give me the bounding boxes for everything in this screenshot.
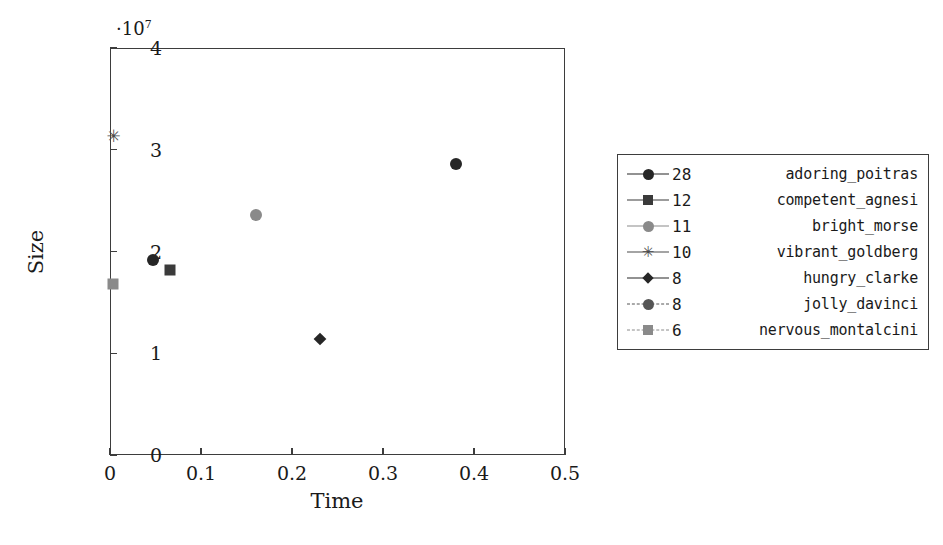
legend-marker-sample [626, 268, 670, 288]
data-point-star: ✳ [107, 127, 121, 144]
legend-series-name: nervous_montalcini [702, 321, 918, 339]
x-axis-tick-label: 0.3 [368, 462, 398, 484]
legend-marker-square-icon [643, 325, 653, 335]
legend-marker-sample [626, 320, 670, 340]
x-axis-tick [564, 448, 565, 455]
legend-series-name: adoring_poitras [702, 165, 918, 183]
x-axis-tick-label: 0.2 [277, 462, 307, 484]
legend-count: 10 [670, 243, 702, 262]
x-axis-tick-label: 0.1 [186, 462, 216, 484]
data-point-square [165, 264, 176, 275]
legend-item[interactable]: 6nervous_montalcini [626, 317, 918, 343]
legend-marker-sample: ✳ [626, 242, 670, 262]
legend-count: 8 [670, 269, 702, 288]
legend-count: 6 [670, 321, 702, 340]
legend-marker-sample [626, 164, 670, 184]
y-axis-title: Size [24, 230, 48, 275]
legend-marker-circle-icon [643, 299, 654, 310]
data-point-circle [147, 254, 159, 266]
legend-marker-circle-icon [643, 221, 654, 232]
x-axis-tick-label: 0.4 [459, 462, 489, 484]
legend-item[interactable]: 8jolly_davinci [626, 291, 918, 317]
y-axis-tick-label: 1 [102, 342, 162, 364]
legend-marker-sample [626, 294, 670, 314]
legend-marker-sample [626, 216, 670, 236]
legend-count: 28 [670, 165, 702, 184]
legend-item[interactable]: 28adoring_poitras [626, 161, 918, 187]
x-axis-title: Time [310, 489, 363, 513]
legend-count: 12 [670, 191, 702, 210]
x-axis-tick [291, 448, 292, 455]
legend-marker-square-icon [643, 195, 653, 205]
data-point-circle [250, 209, 262, 221]
x-axis-tick-label: 0.5 [550, 462, 580, 484]
y-axis-tick-label: 4 [102, 37, 162, 59]
legend-marker-diamond-icon [642, 272, 653, 283]
scatter-chart-figure: ·107 00.10.20.30.40.501234✳ Time Size 28… [0, 0, 943, 545]
y-axis-multiplier-exponent: 7 [145, 18, 152, 31]
legend-count: 8 [670, 295, 702, 314]
x-axis-tick [382, 448, 383, 455]
legend-series-name: hungry_clarke [702, 269, 918, 287]
legend-marker-star-icon: ✳ [642, 245, 655, 260]
chart-legend: 28adoring_poitras12competent_agnesi11bri… [617, 154, 929, 350]
legend-marker-sample [626, 190, 670, 210]
legend-count: 11 [670, 217, 702, 236]
data-point-circle [450, 158, 462, 170]
legend-item[interactable]: 8hungry_clarke [626, 265, 918, 291]
legend-item[interactable]: 11bright_morse [626, 213, 918, 239]
x-axis-tick [200, 448, 201, 455]
legend-item[interactable]: ✳10vibrant_goldberg [626, 239, 918, 265]
y-axis-multiplier: ·107 [116, 18, 152, 39]
legend-series-name: competent_agnesi [702, 191, 918, 209]
legend-marker-circle-icon [643, 169, 654, 180]
data-point-square [107, 279, 118, 290]
legend-item[interactable]: 12competent_agnesi [626, 187, 918, 213]
x-axis-tick [473, 448, 474, 455]
plot-area [110, 48, 565, 455]
legend-series-name: vibrant_goldberg [702, 243, 918, 261]
legend-series-name: jolly_davinci [702, 295, 918, 313]
y-axis-tick-label: 0 [102, 444, 162, 466]
y-axis-multiplier-base: ·10 [116, 18, 145, 39]
legend-series-name: bright_morse [702, 217, 918, 235]
